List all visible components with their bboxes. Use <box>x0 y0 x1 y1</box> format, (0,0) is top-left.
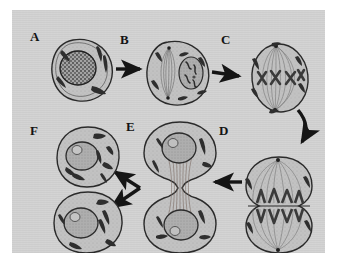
label-d: D <box>219 124 228 137</box>
label-a: A <box>30 30 39 43</box>
label-f: F <box>30 124 38 137</box>
cell-f-upper <box>57 127 119 187</box>
arrow-e-to-f-upper <box>115 172 140 188</box>
cell-b <box>147 41 209 105</box>
cell-e <box>144 122 216 253</box>
mitosis-diagram <box>12 10 325 253</box>
illustration-panel: A B C D E F <box>12 10 325 253</box>
label-e: E <box>126 120 135 133</box>
label-b: B <box>120 33 129 46</box>
figure-stage: A B C D E F <box>0 0 337 265</box>
cell-d <box>245 157 312 253</box>
arrow-c-to-d <box>298 110 306 142</box>
cell-a <box>52 39 113 101</box>
label-c: C <box>221 33 230 46</box>
cell-f-lower <box>54 192 122 253</box>
arrow-b-to-c <box>212 72 239 76</box>
cell-c <box>249 41 312 114</box>
